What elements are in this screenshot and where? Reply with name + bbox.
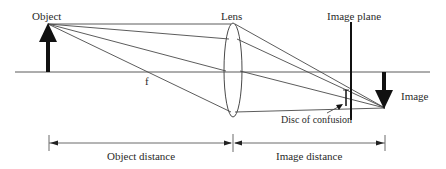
disc-of-confusion-marker: [343, 90, 349, 106]
image-label: Image: [401, 90, 429, 102]
lens-icon: [224, 23, 242, 117]
object-arrow-icon: [39, 23, 57, 72]
image-distance-label: Image distance: [276, 150, 342, 162]
object-label: Object: [32, 10, 61, 22]
focal-point-label: f: [145, 75, 149, 87]
disc-pointer-arrow-icon: [327, 104, 343, 113]
object-distance-label: Object distance: [107, 150, 175, 162]
refracted-rays: [235, 24, 385, 112]
image-plane-label: Image plane: [327, 10, 381, 22]
lens-label: Lens: [221, 10, 242, 22]
incident-rays: [48, 24, 231, 112]
lens-diagram: Object Lens Image plane Image f Disc of …: [0, 0, 446, 169]
disc-of-confusion-label: Disc of confusion: [281, 114, 352, 125]
